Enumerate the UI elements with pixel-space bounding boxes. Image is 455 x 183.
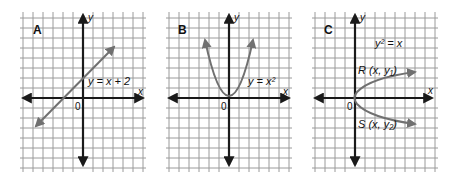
graph-figure: A y = x + 2 x y 0 B y = x² x y bbox=[0, 0, 455, 183]
panel-label-a: A bbox=[33, 23, 42, 37]
y-axis-label-b: y bbox=[233, 12, 240, 23]
equation-c: y² = x bbox=[374, 37, 403, 49]
origin-label-a: 0 bbox=[75, 101, 81, 112]
point-r-label: R (x, y₁) bbox=[358, 64, 397, 76]
y-axis-label-a: y bbox=[87, 12, 94, 23]
panel-a: A y = x + 2 x y 0 bbox=[20, 12, 146, 172]
point-s-label: S (x, y₂) bbox=[358, 118, 397, 130]
panel-c: C y² = x R (x, y₁) S (x, y₂) x y 0 bbox=[312, 12, 438, 172]
equation-a: y = x + 2 bbox=[87, 75, 130, 87]
x-axis-label-c: x bbox=[427, 85, 434, 96]
x-axis-label-b: x bbox=[282, 86, 289, 97]
x-axis-label-a: x bbox=[137, 86, 144, 97]
y-axis-label-c: y bbox=[359, 12, 366, 23]
panel-label-c: C bbox=[324, 23, 333, 37]
origin-label-c: 0 bbox=[347, 101, 353, 112]
equation-b: y = x² bbox=[247, 75, 276, 87]
panel-b: B y = x² x y 0 bbox=[166, 12, 292, 172]
origin-label-b: 0 bbox=[221, 101, 227, 112]
panel-label-b: B bbox=[178, 23, 187, 37]
